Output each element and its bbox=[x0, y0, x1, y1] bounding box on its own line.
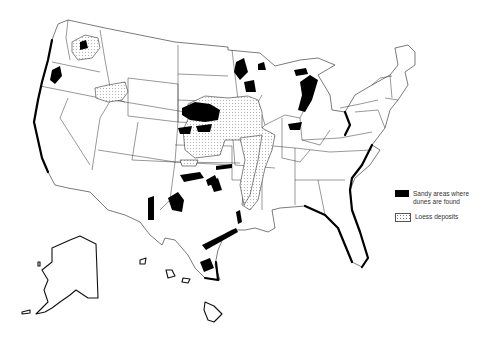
legend-label-sandy: Sandy areas where dunes are found bbox=[413, 190, 483, 205]
map-legend: Sandy areas where dunes are found Loess … bbox=[395, 190, 485, 230]
sandy-area-swatch-icon bbox=[395, 190, 409, 197]
alaska bbox=[22, 236, 98, 314]
legend-item-loess: Loess deposits bbox=[395, 213, 485, 222]
loess-swatch-icon bbox=[395, 213, 411, 222]
legend-item-sandy: Sandy areas where dunes are found bbox=[395, 190, 485, 205]
us-map bbox=[0, 0, 490, 342]
legend-label-loess: Loess deposits bbox=[415, 213, 485, 221]
